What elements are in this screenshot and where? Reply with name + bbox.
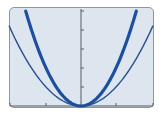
- graph-plot: [0, 0, 165, 114]
